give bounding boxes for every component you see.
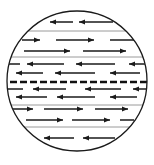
flow-diagram	[0, 0, 154, 165]
arrow-head-right-icon	[27, 106, 33, 111]
arrow-head-left-icon	[129, 61, 135, 66]
arrow-head-left-icon	[110, 70, 116, 75]
arrow-head-left-icon	[57, 94, 63, 99]
arrow-head-left-icon	[79, 19, 85, 24]
arrow-head-left-icon	[33, 86, 39, 91]
arrow-head-left-icon	[85, 86, 91, 91]
arrow-head-left-icon	[55, 70, 61, 75]
arrow-head-left-icon	[44, 135, 50, 140]
arrow-head-left-icon	[16, 70, 22, 75]
arrow-head-right-icon	[88, 37, 94, 42]
arrow-head-right-icon	[77, 106, 83, 111]
arrow-head-left-icon	[50, 19, 56, 24]
arrow-head-right-icon	[122, 106, 128, 111]
arrow-head-left-icon	[16, 94, 22, 99]
arrow-head-left-icon	[133, 86, 139, 91]
arrow-head-right-icon	[57, 117, 63, 122]
arrow-head-right-icon	[34, 37, 40, 42]
arrow-head-right-icon	[120, 48, 126, 53]
arrow-head-left-icon	[27, 61, 33, 66]
arrow-head-left-icon	[110, 94, 116, 99]
arrow-head-left-icon	[76, 61, 82, 66]
arrow-head-left-icon	[83, 135, 89, 140]
arrow-head-right-icon	[104, 117, 110, 122]
arrow-head-right-icon	[64, 48, 70, 53]
